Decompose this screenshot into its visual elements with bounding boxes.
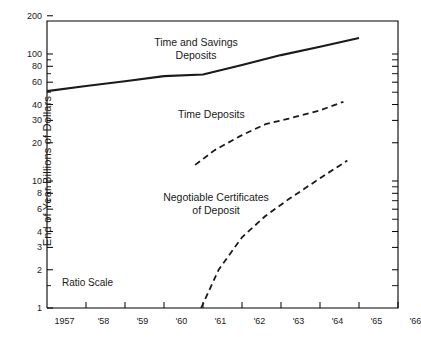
series-label-line-1: Time and Savings <box>131 36 261 49</box>
y-axis-tick-label: 60 <box>10 78 42 87</box>
y-axis-tick-label: 6 <box>10 205 42 214</box>
x-axis-tick-label: '62 <box>254 317 266 326</box>
series-label-line-1: Time Deposits <box>178 108 268 121</box>
x-axis-tick-label: '61 <box>215 317 227 326</box>
y-axis-tick-label: 30 <box>10 116 42 125</box>
y-axis-tick-label: 20 <box>10 138 42 147</box>
x-axis-ticks <box>86 302 398 308</box>
x-axis-tick-label: '63 <box>293 317 305 326</box>
data-series-layer <box>47 38 359 308</box>
y-axis-tick-label: 3 <box>10 243 42 252</box>
y-axis-tick-label: 100 <box>10 50 42 59</box>
series-label-line-2: of Deposit <box>148 204 284 217</box>
x-axis-tick-label: '65 <box>371 317 383 326</box>
x-axis-tick-label: '59 <box>137 317 149 326</box>
y-axis-tick-label: 1 <box>10 304 42 313</box>
y-axis-tick-label: 200 <box>10 11 42 20</box>
plot-frame <box>47 21 398 308</box>
series-label-line-1: Negotiable Certificates <box>148 191 284 204</box>
ratio-scale-note: Ratio Scale <box>62 277 113 289</box>
x-axis-tick-label: '60 <box>176 317 188 326</box>
series-label-line-2: Deposits <box>131 49 261 62</box>
x-axis-tick-label: 1957 <box>54 317 74 326</box>
y-axis-tick-label: 80 <box>10 62 42 71</box>
y-axis-tick-label: 2 <box>10 265 42 274</box>
x-axis-tick-label: '58 <box>98 317 110 326</box>
x-axis-tick-label: '66 <box>410 317 421 326</box>
y-axis-title: End of Year Billions of Dollars <box>41 61 53 281</box>
y-axis-tick-label: 8 <box>10 189 42 198</box>
series-label-negotiable-certificates-of-deposit: Negotiable Certificates of Deposit <box>148 191 284 217</box>
x-axis-tick-label: '64 <box>332 317 344 326</box>
y-axis-tick-label: 4 <box>10 227 42 236</box>
series-label-time-and-savings-deposits: Time and Savings Deposits <box>131 36 261 62</box>
series-line-2 <box>201 161 347 309</box>
y-axis-tick-label: 10 <box>10 177 42 186</box>
series-label-time-deposits: Time Deposits <box>178 108 268 121</box>
y-axis-tick-label: 40 <box>10 100 42 109</box>
